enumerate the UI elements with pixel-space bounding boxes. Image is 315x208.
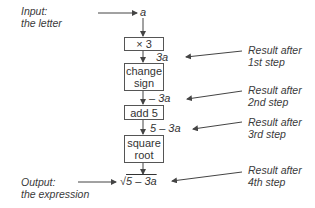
step-box-label-line1: square [127, 137, 161, 149]
output-expression: √5 – 3a [120, 175, 157, 187]
step-2-result-text: – 3a [149, 92, 170, 104]
input-variable: a [140, 6, 146, 18]
step-3-result-text: 5 – 3a [150, 122, 181, 134]
step-2-note-line1: Result after [248, 84, 302, 96]
radicand: 5 – 3a [126, 175, 157, 187]
step-box-change-sign: change sign [124, 63, 164, 91]
step-2-note-line2: 2nd step [248, 96, 302, 108]
output-label: Output: the expression [21, 176, 89, 200]
step-4-note-line1: Result after [248, 164, 302, 176]
step-box-multiply-3: × 3 [124, 37, 164, 51]
input-label-line2: the letter [21, 17, 62, 29]
step-3-result: 5 – 3a [150, 122, 181, 134]
step-box-label: add 5 [130, 107, 158, 119]
step-1-note: Result after 1st step [248, 44, 302, 68]
step-box-label-line1: change [126, 65, 162, 77]
input-label: Input: the letter [21, 5, 62, 29]
step-box-label-line2: sign [134, 77, 154, 89]
step-1-result: 3a [156, 51, 168, 63]
step-3-note-line1: Result after [248, 116, 302, 128]
step-box-label: × 3 [136, 38, 152, 50]
step-1-note-line2: 1st step [248, 56, 302, 68]
step-3-note-line2: 3rd step [248, 128, 302, 140]
output-label-line2: the expression [21, 188, 89, 200]
step-1-note-line1: Result after [248, 44, 302, 56]
step-1-result-text: 3a [156, 51, 168, 63]
step-4-note-line2: 4th step [248, 176, 302, 188]
input-label-line1: Input: [21, 5, 62, 17]
step-2-note: Result after 2nd step [248, 84, 302, 108]
input-value: a [140, 6, 146, 18]
step-2-result: – 3a [149, 92, 170, 104]
step-4-note: Result after 4th step [248, 164, 302, 188]
step-3-note: Result after 3rd step [248, 116, 302, 140]
step-box-square-root: square root [124, 135, 164, 163]
step-box-add-5: add 5 [124, 105, 164, 120]
step-box-label-line2: root [135, 149, 154, 161]
output-label-line1: Output: [21, 176, 89, 188]
